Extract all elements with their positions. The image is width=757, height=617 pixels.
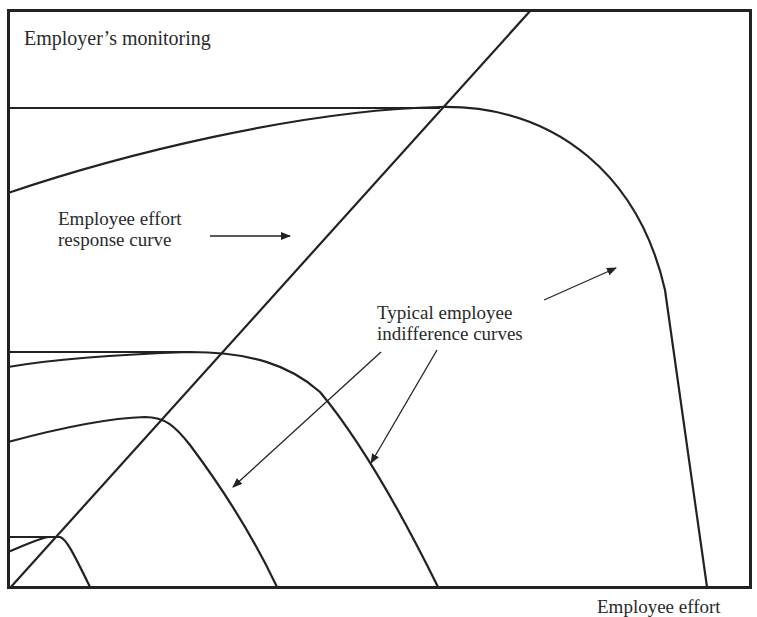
response-curve-label: Employee effort response curve [58, 208, 182, 250]
indifference-curve-4 [8, 107, 707, 587]
response-curve [10, 10, 531, 588]
indifference-curves-label: Typical employee indifference curves [377, 302, 523, 344]
x-axis-label: Employee effort [597, 596, 721, 617]
indiff-arrow-right [371, 350, 437, 463]
plot-frame [9, 11, 751, 588]
indiff-arrow-left [233, 352, 381, 487]
indiff-label-line2: indifference curves [377, 323, 523, 344]
response-label-line1: Employee effort [58, 208, 182, 229]
y-axis-label: Employer’s monitoring [24, 28, 211, 49]
indiff-arrow-top [544, 268, 616, 300]
response-label-line2: response curve [58, 229, 182, 250]
indiff-label-line1: Typical employee [377, 302, 523, 323]
